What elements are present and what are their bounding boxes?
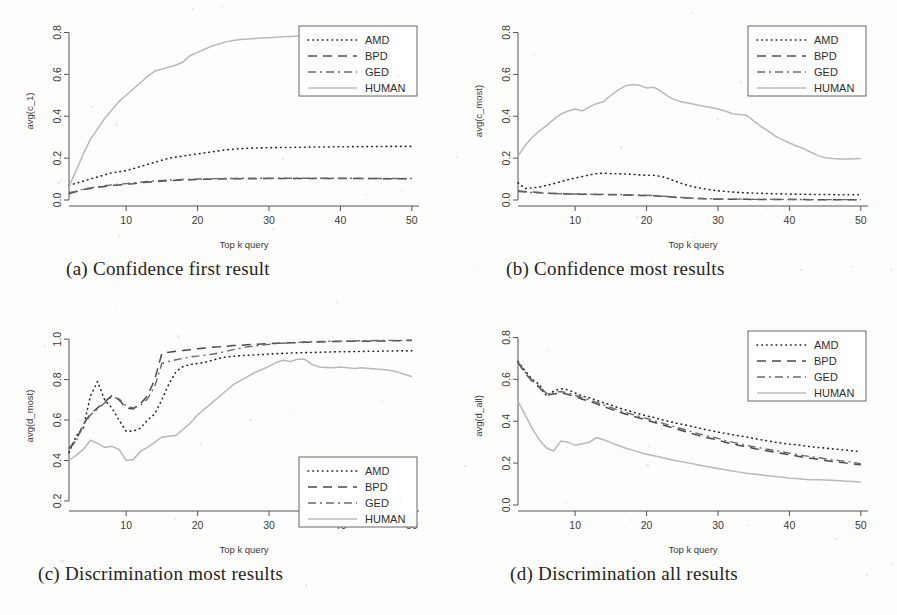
scan-speckle: [648, 445, 650, 447]
x-tick-label: 20: [641, 519, 653, 531]
scan-speckle: [545, 123, 546, 124]
scan-speckle: [44, 345, 46, 347]
legend-label-amd: AMD: [365, 34, 390, 46]
scan-speckle: [91, 106, 92, 107]
y-tick-label: 0.6: [51, 413, 63, 428]
y-tick-label: 0.6: [500, 372, 512, 387]
series-line-bpd: [69, 341, 412, 449]
figure-panel-grid: 0.00.20.40.60.81020304050Top k queryavg(…: [0, 0, 897, 615]
legend-label-human: HUMAN: [365, 513, 405, 525]
y-tick-label: 0.2: [51, 151, 63, 166]
scan-speckle: [716, 118, 718, 120]
scan-speckle: [479, 271, 481, 273]
x-tick-label: 20: [192, 519, 204, 531]
y-tick-label: 0.4: [51, 453, 63, 468]
x-tick-label: 40: [784, 214, 796, 226]
legend: AMDBPDGEDHUMAN: [299, 457, 417, 527]
y-tick-label: 0.8: [500, 330, 512, 345]
panel-b: 0.00.20.40.60.81020304050Top k queryavg(…: [449, 0, 897, 255]
scan-speckle: [767, 52, 769, 54]
panel-a: 0.00.20.40.60.81020304050Top k queryavg(…: [0, 0, 448, 255]
legend-label-human: HUMAN: [365, 82, 405, 94]
scan-speckle: [331, 367, 333, 369]
x-tick-label: 50: [406, 214, 418, 226]
legend-label-human: HUMAN: [814, 387, 854, 399]
legend-label-bpd: BPD: [814, 355, 837, 367]
scan-speckle: [282, 158, 285, 161]
series-line-bpd: [69, 178, 412, 193]
scan-speckle: [1, 388, 2, 389]
y-axis-label: avg(d_all): [473, 395, 484, 437]
scan-speckle: [115, 123, 118, 126]
scan-speckle: [305, 584, 307, 586]
scan-speckle: [892, 563, 894, 565]
panel-c: 0.20.40.60.81.01020304050Top k queryavg(…: [0, 305, 448, 560]
scan-speckle: [408, 24, 409, 25]
x-tick-label: 30: [712, 519, 724, 531]
scan-speckle: [661, 272, 663, 274]
panel-d-plot: 0.00.20.40.60.81020304050Top k queryavg(…: [449, 305, 897, 560]
scan-speckle: [60, 179, 62, 181]
scan-speckle: [748, 524, 750, 526]
scan-speckle: [401, 343, 403, 345]
y-tick-label: 0.0: [500, 498, 512, 513]
x-axis-label: Top k query: [668, 239, 717, 250]
legend-label-ged: GED: [365, 66, 389, 78]
scan-speckle: [546, 349, 548, 351]
x-axis-label: Top k query: [219, 544, 268, 555]
caption-c: (c) Discrimination most results: [38, 563, 283, 585]
scan-speckle: [620, 146, 622, 148]
x-axis-label: Top k query: [219, 239, 268, 250]
caption-b: (b) Confidence most results: [506, 258, 725, 280]
y-tick-label: 0.2: [500, 151, 512, 166]
y-tick-label: 0.4: [500, 414, 512, 429]
legend: AMDBPDGEDHUMAN: [299, 26, 417, 96]
caption-a: (a) Confidence first result: [66, 258, 270, 280]
scan-speckle: [177, 335, 179, 337]
legend-label-amd: AMD: [814, 34, 839, 46]
x-tick-label: 30: [263, 214, 275, 226]
legend-label-human: HUMAN: [814, 82, 854, 94]
x-tick-label: 10: [120, 519, 132, 531]
scan-speckle: [249, 419, 251, 421]
scan-speckle: [335, 485, 337, 487]
scan-speckle: [49, 64, 51, 66]
scan-speckle: [57, 182, 59, 184]
y-tick-label: 0.4: [500, 109, 512, 124]
x-tick-label: 10: [569, 214, 581, 226]
scan-speckle: [333, 38, 335, 40]
legend-label-ged: GED: [814, 371, 838, 383]
x-tick-label: 50: [855, 519, 867, 531]
x-tick-label: 50: [855, 214, 867, 226]
x-tick-label: 40: [784, 519, 796, 531]
y-tick-label: 1.0: [51, 332, 63, 347]
legend-label-bpd: BPD: [814, 50, 837, 62]
scan-speckle: [747, 404, 749, 406]
y-tick-label: 0.4: [51, 109, 63, 124]
legend-label-bpd: BPD: [365, 50, 388, 62]
caption-d: (d) Discrimination all results: [510, 563, 738, 585]
x-tick-label: 30: [263, 519, 275, 531]
scan-speckle: [890, 269, 892, 271]
scan-speckle: [233, 161, 234, 162]
legend-label-bpd: BPD: [365, 481, 388, 493]
y-tick-label: 0.2: [51, 494, 63, 509]
x-tick-label: 10: [569, 519, 581, 531]
panel-a-plot: 0.00.20.40.60.81020304050Top k queryavg(…: [0, 0, 448, 255]
y-tick-label: 0.0: [51, 193, 63, 208]
scan-speckle: [336, 301, 338, 303]
y-tick-label: 0.2: [500, 456, 512, 471]
legend: AMDBPDGEDHUMAN: [748, 26, 866, 96]
x-tick-label: 10: [120, 214, 132, 226]
x-tick-label: 20: [192, 214, 204, 226]
scan-speckle: [77, 418, 78, 419]
scan-speckle: [478, 433, 479, 434]
y-tick-label: 0.8: [500, 25, 512, 40]
scan-speckle: [365, 194, 367, 196]
scan-speckle: [174, 518, 176, 520]
y-tick-label: 0.8: [51, 372, 63, 387]
scan-speckle: [277, 62, 278, 63]
legend-label-ged: GED: [814, 66, 838, 78]
y-tick-label: 0.0: [500, 193, 512, 208]
series-line-ged: [69, 340, 412, 449]
